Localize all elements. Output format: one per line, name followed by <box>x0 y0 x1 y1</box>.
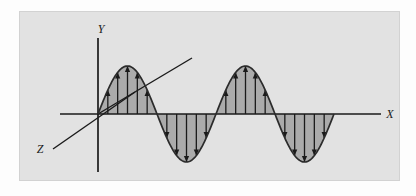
z-axis-label: Z <box>37 142 44 156</box>
wave-diagram: X Y Z <box>0 0 416 196</box>
figure-root: X Y Z <box>0 0 416 196</box>
x-axis-label: X <box>385 107 394 121</box>
y-axis-label: Y <box>98 22 106 36</box>
z-axis-line <box>53 92 135 149</box>
